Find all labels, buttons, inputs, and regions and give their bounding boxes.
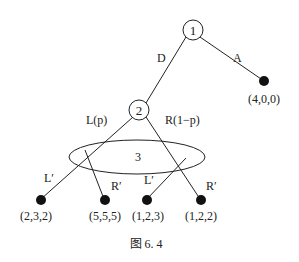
edge-label-r-prime-left: R′ (111, 179, 122, 193)
edge-label-l-prime-right: L′ (144, 173, 154, 187)
node-2: 2 (129, 100, 149, 120)
game-tree-diagram: 1 2 3 D A L(p) R(1−p) L′ R′ L′ R′ (4,0,0… (0, 0, 299, 262)
edge-label-d: D (157, 51, 166, 65)
payoff-rl: (1,2,3) (132, 209, 164, 223)
edge-label-r-prime-right: R′ (206, 179, 217, 193)
edge-label-l-prime-left: L′ (44, 171, 54, 185)
edge-r (146, 117, 200, 199)
edge-label-l: L(p) (86, 113, 107, 127)
edge-label-a: A (233, 51, 242, 65)
edge-d (146, 37, 186, 103)
node-2-label: 2 (136, 103, 143, 118)
terminal-node-ll (36, 195, 46, 205)
terminal-node-lr (100, 195, 110, 205)
payoff-a: (4,0,0) (248, 92, 280, 106)
node-3-label: 3 (135, 150, 141, 164)
node-1-label: 1 (190, 23, 197, 38)
terminal-node-rl (142, 195, 152, 205)
edge-a (200, 37, 264, 81)
node-1: 1 (183, 20, 203, 40)
payoff-lr: (5,5,5) (89, 209, 121, 223)
figure-caption: 图 6. 4 (130, 237, 163, 251)
terminal-node-rr (196, 195, 206, 205)
payoff-rr: (1,2,2) (185, 209, 217, 223)
terminal-node-a (259, 76, 269, 86)
edge-label-r: R(1−p) (165, 113, 200, 127)
payoff-ll: (2,3,2) (20, 209, 52, 223)
edge-r-prime-left (85, 150, 104, 199)
